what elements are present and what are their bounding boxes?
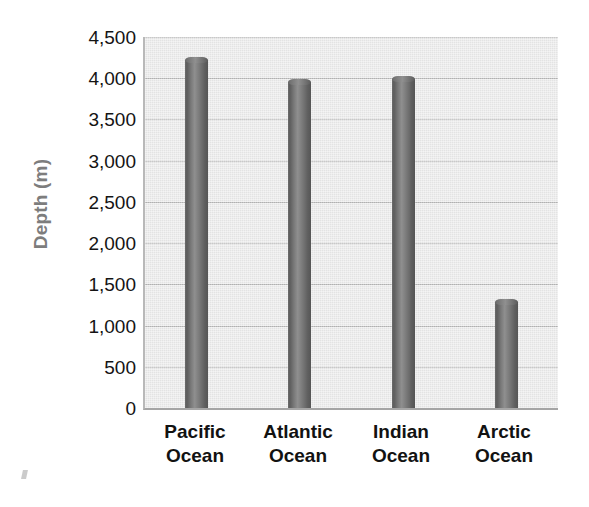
category-label-line: Ocean <box>452 444 556 468</box>
y-axis-tick-label: 2,000 <box>48 234 136 253</box>
y-axis-tick-label: 2,500 <box>48 193 136 212</box>
ocean-depth-bar-chart: Depth (m) 4,5004,0003,5003,0002,5002,000… <box>0 0 589 507</box>
bar <box>185 60 208 408</box>
gridline <box>145 37 558 38</box>
y-axis-tick-label: 3,500 <box>48 110 136 129</box>
y-axis-tick-label: 4,500 <box>48 28 136 47</box>
y-axis-tick-labels: 4,5004,0003,5003,0002,5002,0001,5001,000… <box>48 37 136 408</box>
bar <box>288 82 311 408</box>
y-axis-tick-label: 0 <box>48 399 136 418</box>
x-axis-category-label: IndianOcean <box>349 420 453 469</box>
bar-top-cap <box>495 299 518 305</box>
scan-artifact-mark <box>21 470 28 479</box>
y-axis-tick-label: 500 <box>48 358 136 377</box>
bar <box>495 302 518 408</box>
x-axis-category-label: ArcticOcean <box>452 420 556 469</box>
bar <box>392 79 415 408</box>
x-axis-category-labels: PacificOceanAtlanticOceanIndianOceanArct… <box>143 420 556 480</box>
category-label-line: Ocean <box>246 444 350 468</box>
category-label-line: Ocean <box>349 444 453 468</box>
category-label-line: Ocean <box>143 444 247 468</box>
category-label-line: Arctic <box>452 420 556 444</box>
x-axis-category-label: AtlanticOcean <box>246 420 350 469</box>
bar-top-cap <box>185 57 208 63</box>
category-label-line: Pacific <box>143 420 247 444</box>
y-axis-tick-label: 4,000 <box>48 69 136 88</box>
bar-top-cap <box>392 76 415 82</box>
x-axis-category-label: PacificOcean <box>143 420 247 469</box>
category-label-line: Atlantic <box>246 420 350 444</box>
y-axis-tick-label: 1,000 <box>48 317 136 336</box>
plot-area <box>143 37 558 410</box>
bar-top-cap <box>288 79 311 85</box>
y-axis-tick-label: 1,500 <box>48 275 136 294</box>
y-axis-tick-label: 3,000 <box>48 152 136 171</box>
category-label-line: Indian <box>349 420 453 444</box>
